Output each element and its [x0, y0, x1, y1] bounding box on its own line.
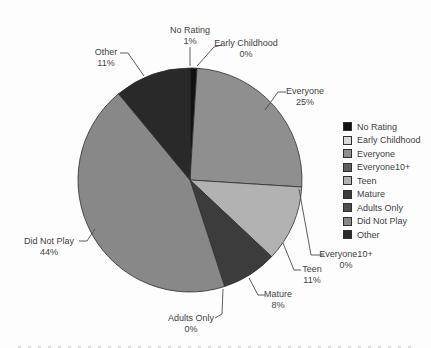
slice-label-name: Adults Only — [168, 313, 214, 324]
legend-item-everyone: Everyone — [343, 147, 421, 161]
slice-label-name: Teen — [302, 264, 322, 275]
slice-label-percent: 25% — [286, 97, 324, 108]
leader-line-mature — [249, 278, 265, 295]
legend-label: Mature — [357, 189, 385, 199]
slice-label-percent: 44% — [24, 247, 74, 258]
legend-item-teen: Teen — [343, 174, 421, 188]
leader-line-other — [120, 53, 144, 76]
slice-label-name: Everyone — [286, 86, 324, 97]
leader-line-teen — [283, 243, 301, 270]
legend-swatch-icon — [343, 149, 352, 158]
pie-chart-figure: No Rating1%Early Childhood0%Everyone25%E… — [0, 0, 431, 348]
slice-label-did-not-play: Did Not Play44% — [24, 236, 74, 258]
leader-line-adults-only — [215, 289, 223, 318]
slice-label-name: Mature — [264, 289, 292, 300]
legend-item-everyone10-: Everyone10+ — [343, 161, 421, 175]
slice-label-everyone10-: Everyone10+0% — [319, 249, 372, 271]
legend-item-did-not-play: Did Not Play — [343, 215, 421, 229]
legend-item-adults-only: Adults Only — [343, 201, 421, 215]
legend-label: Everyone — [357, 149, 395, 159]
slice-label-early-childhood: Early Childhood0% — [214, 38, 278, 60]
legend-swatch-icon — [343, 230, 352, 239]
legend-swatch-icon — [343, 122, 352, 131]
legend-item-mature: Mature — [343, 188, 421, 202]
legend-swatch-icon — [343, 190, 352, 199]
slice-label-percent: 0% — [319, 260, 372, 271]
legend-item-other: Other — [343, 228, 421, 242]
legend-swatch-icon — [343, 176, 352, 185]
legend-label: Adults Only — [357, 203, 403, 213]
legend-swatch-icon — [343, 217, 352, 226]
slice-label-percent: 1% — [170, 36, 210, 47]
slice-label-mature: Mature8% — [264, 289, 292, 311]
slice-label-percent: 8% — [264, 300, 292, 311]
legend-label: Everyone10+ — [357, 162, 410, 172]
slice-label-percent: 11% — [302, 275, 322, 286]
slice-label-name: Other — [95, 47, 118, 58]
legend-item-early-childhood: Early Childhood — [343, 134, 421, 148]
slice-label-everyone: Everyone25% — [286, 86, 324, 108]
legend: No RatingEarly ChildhoodEveryoneEveryone… — [343, 120, 421, 242]
legend-label: Other — [357, 230, 380, 240]
legend-label: Did Not Play — [357, 216, 407, 226]
legend-swatch-icon — [343, 163, 352, 172]
slice-label-no-rating: No Rating1% — [170, 25, 210, 47]
slice-label-percent: 0% — [214, 49, 278, 60]
slice-label-name: Did Not Play — [24, 236, 74, 247]
leader-line-everyone10- — [299, 189, 324, 255]
slice-label-percent: 11% — [95, 58, 118, 69]
slice-label-adults-only: Adults Only0% — [168, 313, 214, 335]
slice-label-percent: 0% — [168, 324, 214, 335]
legend-swatch-icon — [343, 203, 352, 212]
legend-item-no-rating: No Rating — [343, 120, 421, 134]
slice-label-name: No Rating — [170, 25, 210, 36]
slice-label-teen: Teen11% — [302, 264, 322, 286]
legend-label: Early Childhood — [357, 135, 421, 145]
slice-label-other: Other11% — [95, 47, 118, 69]
legend-label: Teen — [357, 176, 377, 186]
legend-swatch-icon — [343, 136, 352, 145]
slice-label-name: Early Childhood — [214, 38, 278, 49]
slice-label-name: Everyone10+ — [319, 249, 372, 260]
legend-label: No Rating — [357, 122, 397, 132]
